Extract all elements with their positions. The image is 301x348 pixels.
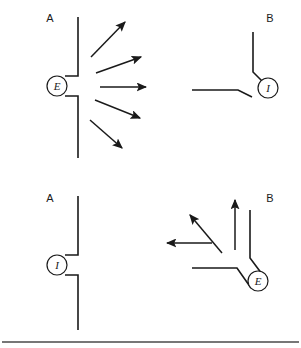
panel-top-side-b: B I [192,12,278,98]
wall-lower-top-left [65,96,78,158]
node-label-bottom-right: E [254,275,262,287]
diagram-figure: A E B I [0,0,301,348]
panel-top-side-a: A E [46,12,146,158]
node-label-top-left: E [53,80,61,92]
conductor-horizontal-top-right [192,90,252,97]
conductor-vertical-bottom-right [250,210,262,274]
wall-lower-bottom-left [65,275,78,330]
panel-label-top-left: A [46,12,54,24]
panel-bottom-side-a: A I [46,192,78,330]
arrow-up-shallow-icon [96,57,141,73]
arrow-fan-top-left [90,22,146,148]
panel-label-top-right: B [266,12,273,24]
arrow-up-steep-icon [91,22,125,57]
conductor-horizontal-bottom-right [192,268,251,288]
arrow-down-steep-icon [90,120,122,148]
panel-label-bottom-right: B [266,192,273,204]
arrow-diagonal-upleft-icon [190,215,222,253]
panel-bottom-side-b: B E [167,192,274,291]
arrow-down-shallow-icon [95,100,140,118]
wall-upper-bottom-left [65,196,78,255]
diagram-canvas: A E B I [0,0,301,348]
conductor-vertical-top-right [253,32,264,83]
panel-label-bottom-left: A [46,192,54,204]
wall-upper-top-left [65,17,78,76]
arrow-fan-bottom-right [167,200,235,253]
